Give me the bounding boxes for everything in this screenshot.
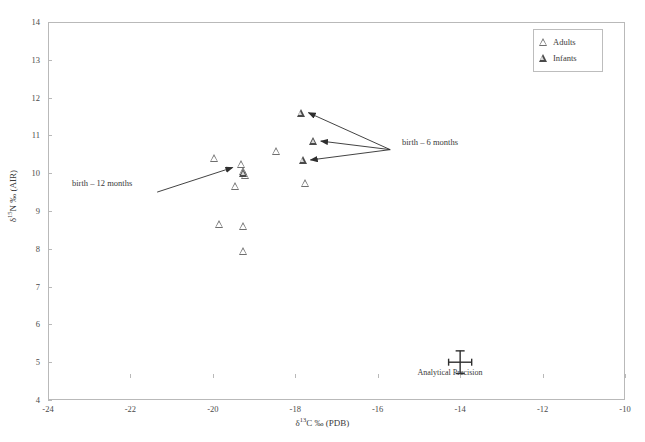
y-tick-label: 9: [18, 206, 40, 216]
filled-triangle-icon: [539, 54, 548, 62]
y-tick: [48, 22, 52, 23]
legend-item-adults: Adults: [539, 34, 597, 50]
x-tick: [378, 374, 379, 378]
y-axis-superscript: 15: [6, 211, 13, 218]
annotation-birth-12-months: birth – 12 months: [72, 178, 132, 188]
x-axis-rest: C ‰ (PDB): [306, 418, 349, 428]
y-tick: [48, 287, 52, 288]
y-tick-label: 6: [18, 319, 40, 329]
y-tick-label: 11: [18, 130, 40, 140]
x-tick: [130, 374, 131, 378]
plot-area: [48, 22, 625, 400]
x-tick: [48, 374, 49, 378]
y-tick-label: 14: [18, 17, 40, 27]
data-point-adults: [215, 220, 223, 228]
chart-legend: Adults Infants: [533, 29, 603, 72]
y-tick-label: 5: [18, 357, 40, 367]
y-tick-label: 10: [18, 168, 40, 178]
legend-item-infants: Infants: [539, 50, 597, 66]
open-triangle-icon: [539, 38, 548, 46]
data-point-adults: [301, 179, 309, 187]
y-tick-label: 7: [18, 282, 40, 292]
legend-label-adults: Adults: [553, 37, 576, 47]
x-tick: [543, 374, 544, 378]
data-point-adults: [210, 154, 218, 162]
x-tick-label: -18: [275, 404, 315, 414]
x-tick: [295, 374, 296, 378]
x-tick-label: -20: [193, 404, 233, 414]
data-point-infants: [299, 156, 307, 164]
y-tick-label: 12: [18, 93, 40, 103]
y-tick: [48, 98, 52, 99]
data-point-adults: [239, 222, 247, 230]
y-tick-label: 4: [18, 395, 40, 405]
x-tick-label: -12: [523, 404, 563, 414]
x-tick-label: -14: [440, 404, 480, 414]
y-axis-rest: N ‰ (AIR): [8, 170, 18, 212]
data-point-adults: [272, 147, 280, 155]
annotation-birth-6-months: birth – 6 months: [402, 137, 458, 147]
data-point-infants: [297, 109, 305, 117]
y-tick: [48, 400, 52, 401]
y-tick-label: 8: [18, 244, 40, 254]
x-tick-label: -22: [110, 404, 150, 414]
x-tick-label: -24: [28, 404, 68, 414]
y-tick: [48, 324, 52, 325]
y-tick-label: 13: [18, 55, 40, 65]
y-tick: [48, 60, 52, 61]
x-tick: [213, 374, 214, 378]
y-axis-title: δ15N ‰ (AIR): [6, 106, 18, 286]
x-axis-title: δ13C ‰ (PDB): [0, 416, 645, 428]
scatter-chart: -24-22-20-18-16-14-12-10 456789101112131…: [0, 0, 645, 442]
y-tick: [48, 173, 52, 174]
y-tick: [48, 211, 52, 212]
data-point-adults: [231, 182, 239, 190]
y-tick: [48, 362, 52, 363]
data-point-infants: [239, 169, 247, 177]
y-axis-delta: δ: [8, 218, 18, 222]
y-tick: [48, 249, 52, 250]
data-point-adults: [239, 247, 247, 255]
analytical-precision-label: Analytical Precision: [395, 368, 505, 377]
x-tick-label: -16: [358, 404, 398, 414]
y-tick: [48, 135, 52, 136]
x-tick-label: -10: [605, 404, 645, 414]
legend-label-infants: Infants: [553, 53, 577, 63]
data-point-infants: [309, 137, 317, 145]
x-tick: [625, 374, 626, 378]
